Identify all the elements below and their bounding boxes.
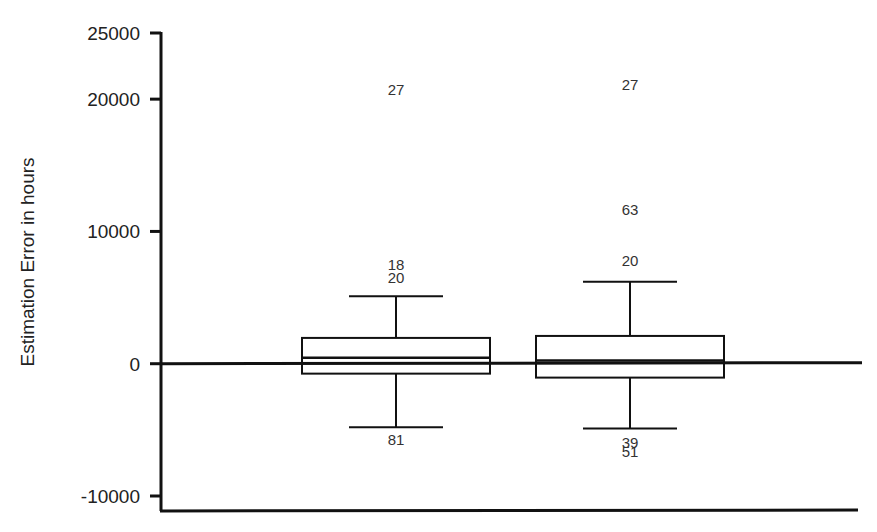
outlier-label: 81 [388,431,405,448]
y-axis-title: Estimation Error in hours [17,157,38,366]
zero-line [161,363,862,364]
y-tick-label: 10000 [87,221,140,242]
zero-reference-line [161,363,862,364]
x-axis [160,510,858,511]
outlier-label: 20 [388,269,405,286]
iqr-box [302,338,490,374]
outlier-label: 27 [622,76,639,93]
y-tick-label: 20000 [87,89,140,110]
outlier-label: 51 [622,443,639,460]
box-plot-chart: 2500020000100000-10000 Estimation Error … [0,0,877,532]
box-series: 271820812763203951 [302,76,724,461]
outlier-label: 63 [622,201,639,218]
x-axis-line [160,510,858,511]
y-tick-label: 25000 [87,23,140,44]
y-axis: 2500020000100000-10000 [81,23,161,511]
box-group-2: 2763203951 [536,76,724,461]
y-tick-label: 0 [129,354,140,375]
y-tick-label: -10000 [81,486,140,507]
outlier-label: 20 [622,252,639,269]
iqr-box [536,336,724,378]
y-axis-title-group: Estimation Error in hours [17,157,38,366]
outlier-label: 27 [388,81,405,98]
box-group-1: 27182081 [302,81,490,449]
